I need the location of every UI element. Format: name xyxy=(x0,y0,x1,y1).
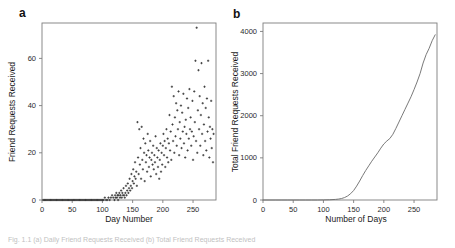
data-point xyxy=(174,135,176,137)
data-point xyxy=(153,154,155,156)
data-point xyxy=(188,88,190,90)
data-point xyxy=(130,173,132,175)
data-point xyxy=(168,114,170,116)
data-point xyxy=(136,121,138,123)
data-point xyxy=(205,149,207,151)
data-point xyxy=(160,152,162,154)
panel-a-ytick-label: 20 xyxy=(28,148,36,157)
panel-a-ytick-label: 40 xyxy=(28,101,36,110)
data-point xyxy=(154,135,156,137)
data-point xyxy=(172,140,174,142)
data-point xyxy=(137,156,139,158)
data-point xyxy=(147,149,149,151)
data-point xyxy=(132,168,134,170)
data-point xyxy=(191,100,193,102)
data-point xyxy=(131,187,133,189)
data-point xyxy=(145,161,147,163)
data-point xyxy=(200,62,202,64)
data-point xyxy=(133,175,135,177)
data-point xyxy=(171,123,173,125)
data-point xyxy=(106,199,108,201)
figure-caption: Fig. 1.1 (a) Daily Friend Requests Recei… xyxy=(8,236,448,248)
data-point xyxy=(209,137,211,139)
data-point xyxy=(211,147,213,149)
data-point xyxy=(212,133,214,135)
data-point xyxy=(124,196,126,198)
scatter-plot-daily-requests: Friend Requests Received Day Number 0204… xyxy=(0,0,228,232)
data-point xyxy=(208,116,210,118)
data-point xyxy=(176,109,178,111)
line-plot-total-requests: Total Friend Requests Received Number of… xyxy=(224,0,452,232)
panel-b-ytick-label: 0 xyxy=(253,196,257,205)
panel-b-ytick-label: 3000 xyxy=(240,69,257,78)
data-point xyxy=(129,189,131,191)
data-point xyxy=(134,178,136,180)
data-point xyxy=(160,171,162,173)
data-point xyxy=(206,97,208,99)
data-point xyxy=(139,147,141,149)
data-point xyxy=(188,137,190,139)
panel-b-x-ticks: 050100150200250 xyxy=(261,200,420,214)
figure-container: a Friend Requests Received Day Number 02… xyxy=(0,0,455,248)
data-point xyxy=(201,133,203,135)
panel-b-cumulative-curve xyxy=(263,35,435,200)
data-point xyxy=(202,102,204,104)
data-point xyxy=(165,128,167,130)
data-point xyxy=(162,145,164,147)
data-point xyxy=(128,187,130,189)
panel-a-xtick-label: 150 xyxy=(126,205,139,214)
data-point xyxy=(163,154,165,156)
data-point xyxy=(203,123,205,125)
data-point xyxy=(181,112,183,114)
data-point xyxy=(175,102,177,104)
data-point xyxy=(189,116,191,118)
data-point xyxy=(180,147,182,149)
data-point xyxy=(182,130,184,132)
data-point xyxy=(119,194,121,196)
data-point xyxy=(173,152,175,154)
data-point xyxy=(205,107,207,109)
data-point xyxy=(134,161,136,163)
data-point xyxy=(167,137,169,139)
data-point xyxy=(123,194,125,196)
data-point xyxy=(107,196,109,198)
data-point xyxy=(111,194,113,196)
data-point xyxy=(162,133,164,135)
panel-a-xlabel: Day Number xyxy=(105,214,153,224)
data-point xyxy=(185,119,187,121)
data-point xyxy=(117,199,119,201)
data-point xyxy=(177,90,179,92)
data-point xyxy=(156,156,158,158)
data-point xyxy=(183,142,185,144)
panel-b-ylabel: Total Friend Requests Received xyxy=(230,51,240,172)
data-point xyxy=(170,159,172,161)
data-point xyxy=(189,128,191,130)
data-point xyxy=(127,182,129,184)
data-point xyxy=(179,137,181,139)
data-point xyxy=(206,130,208,132)
data-point xyxy=(178,154,180,156)
data-point xyxy=(114,194,116,196)
data-point xyxy=(186,149,188,151)
panel-a-xtick-label: 200 xyxy=(157,205,170,214)
data-point xyxy=(125,194,127,196)
panel-a-x-ticks: 050100150200250 xyxy=(40,200,199,214)
data-point xyxy=(190,145,192,147)
data-point xyxy=(155,173,157,175)
data-point xyxy=(139,163,141,165)
data-point xyxy=(186,97,188,99)
data-point xyxy=(195,140,197,142)
data-point xyxy=(179,121,181,123)
data-point xyxy=(166,156,168,158)
data-point xyxy=(167,161,169,163)
data-point xyxy=(133,182,135,184)
data-point xyxy=(120,189,122,191)
panel-a-ylabel: Friend Requests Received xyxy=(7,62,17,162)
panel-b-xtick-label: 200 xyxy=(378,205,391,214)
data-point xyxy=(131,180,133,182)
panel-b: b Total Friend Requests Received Number … xyxy=(224,0,452,232)
data-point xyxy=(122,187,124,189)
data-point xyxy=(113,199,115,201)
data-point xyxy=(126,189,128,191)
panel-a-data-points xyxy=(42,27,215,202)
